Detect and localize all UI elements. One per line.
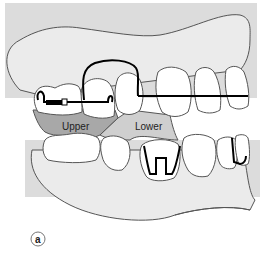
upper-canine xyxy=(156,67,191,116)
lower-label: Lower xyxy=(135,121,163,132)
bracket-end xyxy=(62,99,67,105)
upper-molar xyxy=(34,84,82,115)
dental-diagram: Upper Lower a xyxy=(0,0,260,261)
bracket xyxy=(46,100,62,105)
lower-incisor-2 xyxy=(235,135,249,166)
upper-premolar-1 xyxy=(81,79,115,119)
lower-molar xyxy=(43,133,100,162)
panel-label: a xyxy=(35,234,41,245)
upper-label: Upper xyxy=(62,121,90,132)
